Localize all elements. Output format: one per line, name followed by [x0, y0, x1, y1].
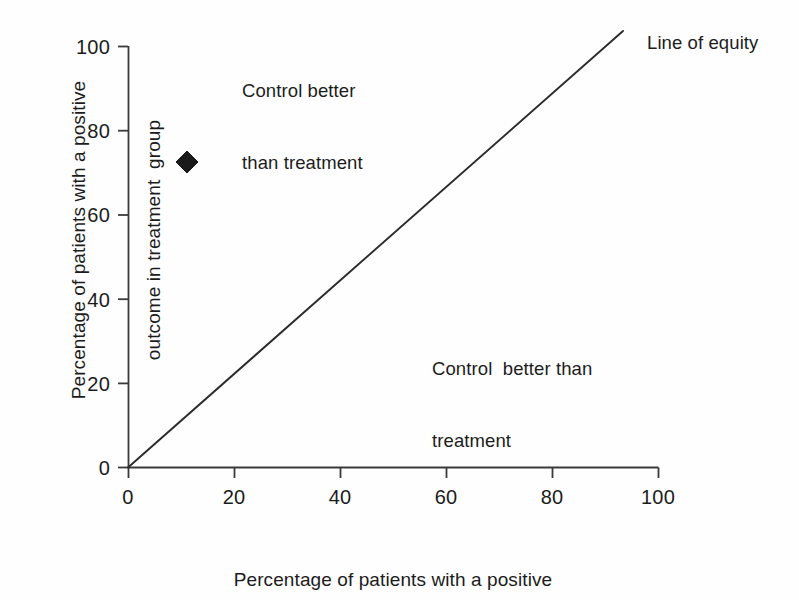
x-tick-label-20: 20 — [204, 484, 264, 510]
annotation-lower-line1: Control better than — [432, 357, 662, 381]
annotation-upper-line1: Control better — [242, 79, 452, 103]
y-axis-title-line2: outcome in treatment group — [141, 10, 166, 470]
annotation-line-of-equity: Line of equity — [647, 31, 797, 55]
y-axis-title-wrap: Percentage of patients with a positive o… — [0, 0, 70, 500]
x-tick-label-40: 40 — [310, 484, 370, 510]
annotation-control-better-lower: Control better than treatment — [432, 309, 662, 501]
annotation-upper-line2: than treatment — [242, 151, 452, 175]
y-axis-title-line1: Percentage of patients with a positive — [66, 10, 91, 470]
x-tick-label-0: 0 — [98, 484, 158, 510]
annotation-control-better-upper: Control better than treatment — [242, 31, 452, 223]
chart-figure: 100 80 60 40 20 0 0 20 40 60 80 100 Cont… — [0, 0, 799, 600]
x-axis-title-line1: Percentage of patients with a positive — [128, 568, 658, 593]
x-axis-title: Percentage of patients with a positive o… — [128, 519, 658, 600]
y-axis-title: Percentage of patients with a positive o… — [16, 10, 217, 470]
annotation-lower-line2: treatment — [432, 429, 662, 453]
